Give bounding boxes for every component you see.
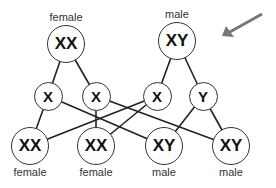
parent-node: XY	[158, 22, 196, 60]
gamete-node: Y	[189, 82, 218, 111]
offspring-node: XX	[77, 127, 115, 165]
gamete-node: X	[82, 82, 111, 111]
offspring-node: XY	[145, 127, 183, 165]
pointer-arrow-icon	[222, 14, 262, 37]
offspring-node: XX	[11, 127, 49, 165]
sex-label: female	[71, 166, 121, 178]
sex-label: female	[5, 166, 55, 178]
sex-label: male	[152, 8, 202, 20]
offspring-node: XY	[212, 127, 250, 165]
gamete-node: X	[34, 82, 63, 111]
sex-label: male	[206, 166, 256, 178]
parent-node: XX	[47, 25, 85, 63]
sex-label: male	[139, 166, 189, 178]
gamete-node: X	[143, 82, 172, 111]
sex-label: female	[41, 11, 91, 23]
